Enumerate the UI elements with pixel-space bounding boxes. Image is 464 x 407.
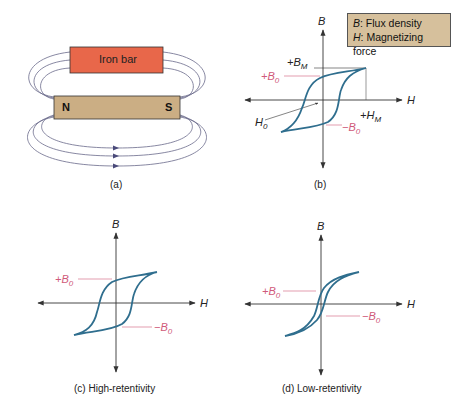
h0-label: H0	[255, 116, 268, 131]
magnet-north-label: N	[62, 101, 70, 113]
panel-a-magnet-diagram	[28, 47, 207, 169]
magnet-south-label: S	[165, 101, 172, 113]
caption-d: (d) Low-retentivity	[282, 383, 361, 394]
caption-b: (b)	[314, 179, 326, 190]
d-b0-neg-label: −B0	[362, 310, 381, 325]
b0-neg-label: −B0	[342, 121, 361, 136]
legend-line-flux: B: Flux density	[353, 16, 445, 30]
c-b0-pos-label: +B0	[55, 273, 74, 288]
panel-d-low-retentivity	[245, 235, 402, 375]
bar-magnet	[54, 96, 180, 119]
field-lines-bottom	[28, 115, 207, 166]
h-axis-label: H	[407, 94, 415, 106]
hysteresis-curve-c	[74, 272, 157, 335]
legend-line-magnetizing: H: Magnetizing force	[353, 30, 445, 58]
caption-c: (c) High-retentivity	[74, 383, 155, 394]
iron-bar-label: Iron bar	[99, 53, 137, 65]
b0-pos-label: +B0	[261, 70, 280, 85]
hm-label: +HM	[360, 109, 381, 124]
c-h-axis-label: H	[200, 297, 208, 309]
b-axis-label: B	[318, 15, 325, 27]
figure-canvas: B H +BM +B0 −B0 +HM H0 (b) (a) B H +B0 −…	[0, 0, 464, 407]
h0-pointer	[265, 103, 318, 120]
legend-box: B: Flux density H: Magnetizing force	[347, 13, 451, 47]
bm-label: +BM	[287, 56, 308, 71]
d-b0-pos-label: +B0	[262, 285, 281, 300]
field-direction-arrows	[113, 146, 119, 169]
c-b-axis-label: B	[112, 218, 119, 230]
d-h-axis-label: H	[407, 298, 415, 310]
d-b-axis-label: B	[317, 220, 324, 232]
c-b0-neg-label: −B0	[154, 321, 173, 336]
caption-a: (a)	[110, 179, 122, 190]
panel-c-high-retentivity	[38, 233, 195, 372]
